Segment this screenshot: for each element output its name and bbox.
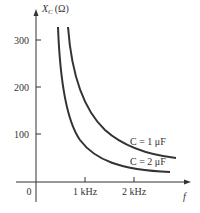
y-axis-arrow-icon: [34, 9, 39, 16]
label-c-1uf: C = 1 μF: [130, 136, 166, 147]
origin-label: 0: [27, 186, 32, 197]
x-tick-1khz: 1 kHz: [73, 186, 98, 197]
x-tick-2khz: 2 kHz: [122, 186, 147, 197]
chart: 300 200 100 0 1 kHz 2 kHz XC(Ω) f C = 1 …: [0, 0, 200, 213]
y-tick-100: 100: [14, 129, 29, 140]
x-axis-label: f: [183, 191, 187, 202]
y-axis-label: XC(Ω): [41, 3, 69, 16]
curve-c-2uf: [58, 27, 170, 172]
y-tick-200: 200: [14, 82, 29, 93]
y-tick-300: 300: [14, 35, 29, 46]
x-axis-arrow-icon: [184, 180, 191, 185]
label-c-2uf: C = 2 μF: [130, 156, 166, 167]
